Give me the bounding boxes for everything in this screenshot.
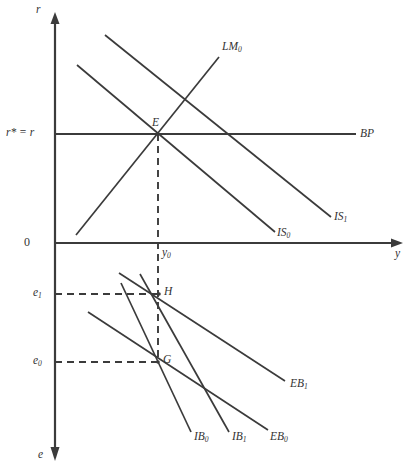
- point-marker-E: [156, 132, 160, 136]
- curve-label-IS0: IS0: [277, 227, 290, 240]
- point-label-H: H: [164, 286, 172, 298]
- y-axis-label: y: [395, 248, 400, 260]
- tick-label-e0: e0: [33, 355, 42, 368]
- r-axis-arrowhead: [51, 12, 60, 24]
- curve-label-IB0-sub: 0: [205, 435, 209, 444]
- curve-label-EB1: EB1: [290, 378, 308, 391]
- curve-label-IS0-base: IS: [277, 226, 287, 238]
- curve-label-IB0: IB0: [194, 431, 209, 444]
- curve-label-IS1: IS1: [334, 211, 347, 224]
- axes-group: [51, 12, 404, 461]
- e-axis-arrowhead: [51, 447, 60, 461]
- tick-label-r-star: r* = r: [6, 127, 34, 139]
- curve-label-LM0-sub: 0: [238, 45, 242, 54]
- curve-label-IS1-base: IS: [334, 210, 344, 222]
- e-axis-label: e: [38, 449, 43, 461]
- origin-label: 0: [24, 236, 30, 248]
- curve-LM0: [76, 57, 219, 235]
- r-axis-label: r: [36, 4, 40, 16]
- curve-label-LM0: LM0: [222, 41, 242, 54]
- tick-label-e1-sub: 1: [38, 291, 42, 300]
- curve-label-IS0-sub: 0: [287, 231, 291, 240]
- curve-EB1: [119, 273, 285, 381]
- isml-bp-diagram: r y e 0 r* = r y0 e1 e0 E H G LM0 IS0 IS…: [0, 0, 415, 470]
- curve-label-BP: BP: [360, 128, 374, 140]
- curve-EB0: [88, 312, 268, 430]
- curve-label-IB1-sub: 1: [243, 435, 247, 444]
- curve-label-IB0-base: IB: [194, 430, 205, 442]
- curve-label-EB1-base: EB: [290, 377, 304, 389]
- curve-label-LM0-base: LM: [222, 40, 238, 52]
- upper-panel-curves: [55, 35, 356, 235]
- tick-label-y0-sub: 0: [167, 251, 171, 260]
- point-label-G: G: [163, 354, 171, 366]
- guide-lines: [55, 134, 159, 362]
- point-label-E: E: [152, 117, 159, 129]
- diagram-canvas: [0, 0, 415, 470]
- point-marker-H: [157, 292, 161, 296]
- curve-IS1: [105, 35, 331, 217]
- curve-label-IB1-base: IB: [232, 430, 243, 442]
- tick-label-e1: e1: [33, 287, 42, 300]
- lower-panel-curves: [88, 273, 285, 432]
- tick-label-y0: y0: [162, 247, 171, 260]
- curve-label-EB0-sub: 0: [284, 435, 288, 444]
- curve-label-EB1-sub: 1: [304, 382, 308, 391]
- curve-label-EB0: EB0: [270, 431, 288, 444]
- point-marker-G: [156, 360, 160, 364]
- tick-label-e0-sub: 0: [38, 359, 42, 368]
- curve-label-IB1: IB1: [232, 431, 247, 444]
- curve-label-EB0-base: EB: [270, 430, 284, 442]
- curve-label-IS1-sub: 1: [344, 215, 348, 224]
